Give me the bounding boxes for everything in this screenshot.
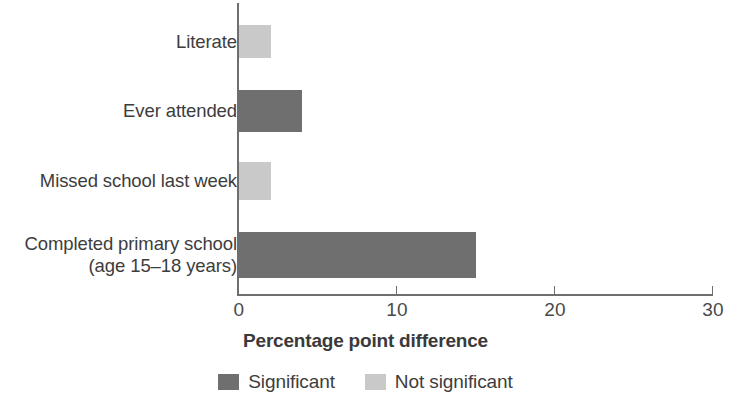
legend-swatch-not-significant — [365, 374, 386, 390]
bar-chart: 0 10 20 30 Literate Ever attended Missed… — [0, 0, 731, 402]
x-tick-label-1: 10 — [386, 299, 408, 321]
x-tick-mark-0 — [238, 286, 239, 295]
legend-item-not-significant: Not significant — [365, 371, 513, 393]
category-label: Completed primary school (age 15–18 year… — [0, 233, 237, 277]
x-axis-title: Percentage point difference — [0, 330, 731, 352]
x-axis-line — [237, 294, 713, 296]
legend-swatch-significant — [218, 374, 239, 390]
bar-missed-school-last-week — [239, 162, 271, 200]
category-label: Literate — [0, 31, 237, 53]
bar-completed-primary-school — [239, 232, 476, 278]
category-label: Missed school last week — [0, 170, 237, 192]
legend-item-significant: Significant — [218, 371, 335, 393]
bar-literate — [239, 25, 271, 58]
x-tick-mark-3 — [712, 286, 713, 295]
legend: Significant Not significant — [0, 371, 731, 393]
x-tick-label-2: 20 — [544, 299, 566, 321]
bar-ever-attended — [239, 90, 302, 132]
legend-label-not-significant: Not significant — [395, 371, 513, 393]
plot-area: 0 10 20 30 Literate Ever attended Missed… — [0, 0, 731, 300]
legend-label-significant: Significant — [248, 371, 335, 393]
x-tick-label-0: 0 — [234, 299, 245, 321]
x-tick-label-3: 30 — [702, 299, 724, 321]
x-tick-mark-2 — [554, 286, 555, 295]
x-tick-mark-1 — [396, 286, 397, 295]
category-label: Ever attended — [0, 100, 237, 122]
